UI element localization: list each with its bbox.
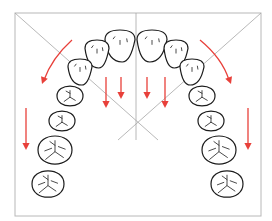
dental-arch-diagram: [0, 0, 272, 221]
right-second-premolar-icon: [198, 111, 224, 131]
left-second-premolar-icon: [49, 111, 75, 131]
incisor-arrow-2-icon: [117, 77, 124, 99]
left-first-premolar-icon: [57, 86, 83, 106]
left-central-incisor-icon: [105, 30, 135, 62]
left-second-molar-icon: [32, 171, 64, 197]
right-canine-icon: [180, 59, 204, 85]
right-central-incisor-icon: [137, 30, 167, 62]
incisor-arrow-4-icon: [161, 77, 168, 108]
diagram-canvas: [0, 0, 272, 221]
left-curved-arrow-icon: [41, 40, 72, 84]
left-first-molar-icon: [38, 136, 72, 164]
right-curved-arrow-icon: [200, 40, 232, 84]
right-first-molar-icon: [202, 136, 236, 164]
right-vertical-arrow-icon: [244, 108, 251, 150]
left-vertical-arrow-icon: [22, 108, 29, 150]
teeth: [32, 30, 243, 197]
incisor-arrow-1-icon: [102, 77, 109, 108]
right-first-premolar-icon: [189, 86, 215, 106]
left-canine-icon: [68, 59, 92, 85]
right-second-molar-icon: [211, 171, 243, 197]
incisor-arrow-3-icon: [143, 77, 150, 99]
